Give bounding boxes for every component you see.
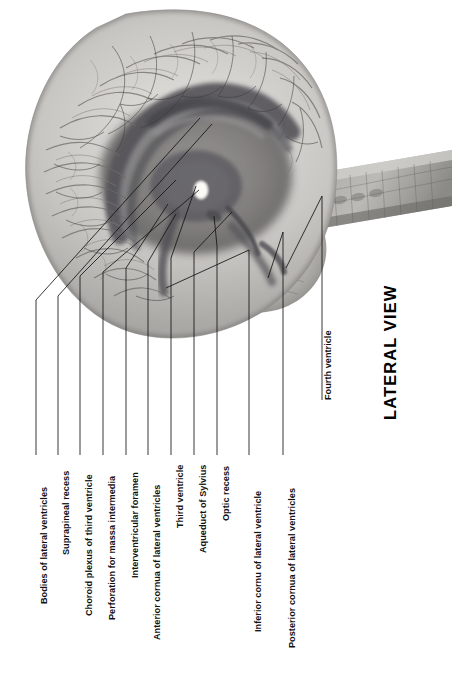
label-choroid-plexus-of-third-ventricle: Choroid plexus of third ventricle — [85, 474, 94, 616]
label-optic-recess: Optic recess — [222, 466, 231, 521]
massa-intermedia-perforation — [194, 181, 209, 200]
anatomical-plate: Bodies of lateral ventricles Suprapineal… — [0, 0, 452, 678]
label-anterior-cornua-of-lateral-ventricles: Anterior cornua of lateral ventricles — [153, 485, 162, 640]
label-inferior-cornu-of-lateral-ventricle: Inferior cornu of lateral ventricle — [254, 491, 263, 632]
label-perforation-for-massa-intermedia: Perforation for massa intermedia — [108, 476, 117, 620]
label-third-ventricle: Third ventricle — [176, 465, 185, 528]
label-suprapineal-recess: Suprapineal recess — [62, 471, 71, 555]
label-aqueduct-of-sylvius: Aqueduct of Sylvius — [199, 465, 208, 553]
label-posterior-cornua-of-lateral-ventricles: Posterior cornua of lateral ventricles — [288, 488, 297, 648]
label-bodies-of-lateral-ventricles: Bodies of lateral ventricles — [40, 487, 49, 604]
label-interventricular-foramen: Interventricular foramen — [131, 472, 140, 578]
label-fourth-ventricle: Fourth ventricle — [324, 330, 333, 400]
page-title: LATERAL VIEW — [382, 285, 399, 420]
